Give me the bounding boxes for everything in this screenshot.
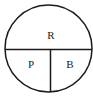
- divided-circle-diagram: R P B: [0, 0, 93, 97]
- region-label-top: R: [47, 29, 55, 41]
- outer-circle: [5, 5, 92, 92]
- region-label-bottom-left: P: [28, 58, 34, 70]
- region-label-bottom-right: B: [66, 58, 73, 70]
